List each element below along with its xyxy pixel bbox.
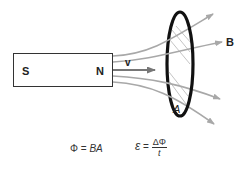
emf-equation: ε = ΔΦt	[135, 137, 167, 158]
flux-equals: =	[78, 143, 89, 154]
induction-diagram: S N v B A	[0, 0, 248, 170]
emf-denominator: t	[152, 148, 167, 158]
emf-fraction: ΔΦt	[152, 137, 167, 158]
emf-numerator: ΔΦ	[152, 137, 167, 148]
magnet-south-label: S	[22, 65, 29, 77]
flux-rhs: BA	[89, 143, 102, 154]
flux-symbol: Φ	[70, 143, 78, 154]
flux-equation: Φ = BA	[70, 143, 103, 154]
area-label: A	[172, 103, 180, 115]
emf-equals: =	[140, 141, 151, 152]
magnet-north-label: N	[96, 65, 104, 77]
velocity-label: v	[125, 57, 131, 68]
field-label: B	[226, 36, 234, 48]
